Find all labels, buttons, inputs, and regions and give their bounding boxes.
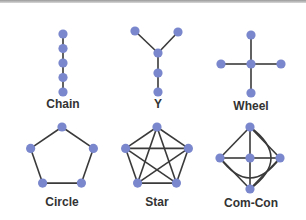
node-comcon-0: [245, 122, 254, 131]
edge-star: [157, 127, 176, 183]
node-comcon-1: [215, 153, 224, 162]
node-y-3: [153, 68, 162, 77]
node-circle-2: [89, 144, 98, 153]
network-star: [121, 122, 193, 187]
edge-circle: [31, 148, 43, 183]
edge-star: [126, 148, 138, 183]
node-y-4: [153, 87, 162, 96]
network-y: [130, 26, 182, 96]
node-wheel-1: [216, 59, 225, 68]
node-chain-3: [58, 73, 67, 82]
network-chain: [58, 29, 67, 96]
node-star-2: [184, 144, 193, 153]
label-y: Y: [154, 97, 162, 111]
node-y-1: [173, 27, 182, 36]
node-star-3: [133, 178, 142, 187]
node-comcon-4: [245, 184, 254, 193]
node-wheel-2: [246, 59, 255, 68]
label-star: Star: [145, 195, 169, 209]
node-circle-3: [38, 178, 47, 187]
node-star-4: [172, 178, 181, 187]
node-comcon-2: [245, 153, 254, 162]
network-wheel: [216, 30, 285, 97]
node-y-0: [130, 26, 139, 35]
network-circle: [26, 122, 98, 187]
edge-comcon: [220, 127, 250, 158]
edge-star: [126, 148, 177, 183]
node-circle-0: [57, 122, 66, 131]
node-circle-1: [26, 144, 35, 153]
node-chain-0: [58, 29, 67, 38]
node-star-0: [152, 122, 161, 131]
label-chain: Chain: [46, 97, 79, 111]
edge-star: [138, 148, 189, 183]
node-circle-4: [77, 178, 86, 187]
node-y-2: [153, 48, 162, 57]
edge-circle: [81, 148, 93, 183]
node-wheel-3: [276, 59, 285, 68]
network-diagram: Chain Y Wheel Circle Star Com-Con: [0, 0, 306, 220]
node-chain-2: [58, 58, 67, 67]
node-chain-4: [58, 87, 67, 96]
node-comcon-3: [275, 153, 284, 162]
node-wheel-0: [246, 30, 255, 39]
network-comcon: [215, 122, 284, 193]
node-wheel-4: [246, 88, 255, 97]
edge-star: [138, 127, 157, 183]
edge-star: [157, 127, 188, 148]
edge-star: [176, 148, 188, 183]
edge-circle: [62, 127, 93, 148]
edge-y: [135, 31, 158, 53]
label-circle: Circle: [45, 195, 79, 209]
label-wheel: Wheel: [233, 99, 268, 113]
label-comcon: Com-Con: [224, 196, 278, 210]
edge-circle: [31, 127, 62, 148]
node-chain-1: [58, 44, 67, 53]
node-star-1: [121, 144, 130, 153]
edge-star: [126, 127, 157, 148]
